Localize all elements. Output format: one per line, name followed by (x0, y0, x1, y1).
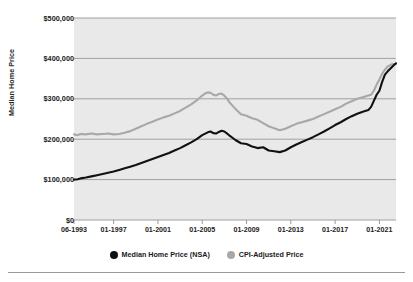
x-axis-tick-label: 01-2009 (222, 226, 272, 234)
y-axis-tick-label: $300,000 (4, 94, 74, 103)
legend-marker-circle-icon (110, 251, 118, 259)
legend-marker-circle-icon (227, 251, 235, 259)
x-axis-tick-label: 01-2001 (133, 226, 183, 234)
chart-figure: Median Home Price $0$100,000$200,000$300… (0, 0, 413, 282)
legend-entry[interactable]: Median Home Price (NSA) (110, 250, 210, 259)
x-axis-tick-label: 01-2005 (177, 226, 227, 234)
y-axis-tick-label: $400,000 (4, 54, 74, 63)
legend-label: CPI-Adjusted Price (239, 250, 304, 259)
y-axis-tick-label: $200,000 (4, 135, 74, 144)
x-axis-tick-label: 01-2017 (310, 226, 360, 234)
legend-entry[interactable]: CPI-Adjusted Price (227, 250, 304, 259)
y-axis-tick-label: $0 (4, 216, 74, 225)
x-axis-tick-label: 01-1997 (89, 226, 139, 234)
x-axis-tick-label: 01-2021 (354, 226, 404, 234)
y-axis-tick-label: $500,000 (4, 14, 74, 23)
x-axis-tick-label: 01-2013 (266, 226, 316, 234)
footer-divider (8, 272, 405, 273)
y-axis-tick-label: $100,000 (4, 175, 74, 184)
legend-label: Median Home Price (NSA) (122, 250, 210, 259)
chart-legend: Median Home Price (NSA)CPI-Adjusted Pric… (0, 250, 413, 259)
